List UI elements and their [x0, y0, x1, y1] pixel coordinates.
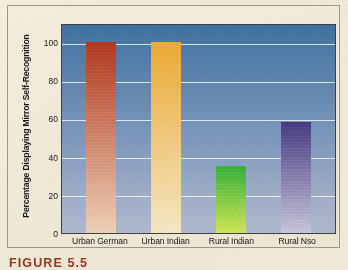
bar-urban-german[interactable] [86, 42, 116, 233]
bar-rural-indian[interactable] [216, 166, 246, 233]
bar-slot-2 [133, 25, 198, 233]
plot-area [61, 24, 336, 234]
x-tick-label-rural-indian: Rural Indian [199, 236, 265, 246]
y-axis-title-label: Percentage Displaying Mirror Self-Recogn… [21, 34, 31, 217]
y-tick-label-40: 40 [49, 153, 58, 163]
y-tick-label-0: 0 [53, 229, 58, 239]
y-tick-label-20: 20 [49, 191, 58, 201]
y-axis-tick-labels: 020406080100 [32, 24, 58, 234]
bar-rural-nso[interactable] [281, 122, 311, 233]
x-axis-tick-labels: Urban GermanUrban IndianRural IndianRura… [61, 236, 336, 246]
bar-urban-indian[interactable] [151, 42, 181, 233]
x-tick-label-urban-indian: Urban Indian [133, 236, 199, 246]
x-tick-label-urban-german: Urban German [67, 236, 133, 246]
figure-caption: FIGURE 5.5 [9, 256, 88, 270]
bar-series [62, 25, 335, 233]
y-tick-label-100: 100 [44, 38, 58, 48]
figure-frame: Percentage Displaying Mirror Self-Recogn… [7, 5, 340, 248]
x-tick-label-rural-nso: Rural Nso [264, 236, 330, 246]
bar-slot-1 [68, 25, 133, 233]
y-tick-label-60: 60 [49, 114, 58, 124]
figure-page: Percentage Displaying Mirror Self-Recogn… [0, 0, 348, 270]
y-tick-label-80: 80 [49, 76, 58, 86]
bar-slot-3 [199, 25, 264, 233]
bar-slot-4 [264, 25, 329, 233]
